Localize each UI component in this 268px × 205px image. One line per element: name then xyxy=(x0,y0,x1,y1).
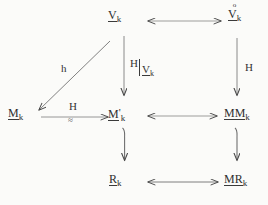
node-v-k-subscript: k xyxy=(117,15,122,24)
edge-label-h-right-column: H xyxy=(245,62,253,73)
node-v-circ-k-base: V xyxy=(228,8,237,21)
node-m-k-subscript: k xyxy=(19,113,24,122)
node-v-circ-k-subscript: k xyxy=(237,14,242,23)
node-m-k: Mk xyxy=(8,107,23,122)
node-mm-k-subscript: k xyxy=(245,113,250,122)
node-mr-k: MRk xyxy=(224,173,247,188)
edge-label-h-diagonal: h xyxy=(61,63,67,74)
node-r-k: Rk xyxy=(109,173,122,188)
arrow-mprime-to-r xyxy=(123,128,125,160)
restriction-domain: Vk xyxy=(142,64,154,78)
node-mr-k-subscript: k xyxy=(243,179,248,188)
node-mr-k-base: MR xyxy=(224,173,243,186)
edge-label-approx: ≈ xyxy=(68,115,73,125)
node-mm-k-base: MM xyxy=(224,107,245,120)
commutative-diagram: °V_k --> MM_k --> MR_k --> M'_k (labelle… xyxy=(0,0,268,205)
node-r-k-subscript: k xyxy=(117,179,122,188)
edge-label-h-horizontal: H xyxy=(69,101,77,112)
node-mm-k: MMk xyxy=(224,107,250,122)
node-m-prime-k-subscript: k xyxy=(121,114,126,123)
restriction-domain-subscript: k xyxy=(150,69,154,78)
node-v-circ-k: o Vk xyxy=(228,3,241,23)
node-m-k-base: M xyxy=(8,107,19,120)
node-r-k-base: R xyxy=(109,173,117,186)
node-m-prime-k: M'k xyxy=(108,107,125,123)
arrow-mm-to-mr xyxy=(235,128,237,160)
node-m-prime-k-base: M xyxy=(108,108,119,121)
edge-label-h-restricted-v-k: H Vk xyxy=(130,58,154,75)
node-v-k: Vk xyxy=(108,9,121,24)
restriction-bar-icon xyxy=(139,59,140,76)
restriction-function: H xyxy=(130,58,138,69)
restriction-domain-base: V xyxy=(142,63,150,76)
node-v-k-base: V xyxy=(108,9,117,22)
